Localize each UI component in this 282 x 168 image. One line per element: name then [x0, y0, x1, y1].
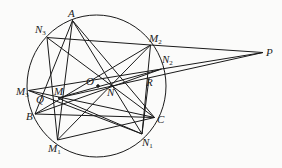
label-P: P — [265, 46, 273, 58]
label-C: C — [157, 113, 165, 125]
label-R: R — [145, 76, 153, 88]
segment-M1-C — [58, 118, 155, 141]
label-B: B — [26, 110, 33, 122]
segment-N2-P — [162, 53, 264, 70]
circle-figure: AN3M2N2RPM3QMONBCN1M1 — [0, 0, 282, 168]
label-M: M — [53, 85, 64, 97]
label-O: O — [86, 75, 94, 87]
geometry-diagram: AN3M2N2RPM3QMONBCN1M1 — [0, 0, 282, 168]
segment-M-N1 — [58, 98, 142, 134]
label-Q: Q — [36, 93, 44, 105]
segment-N3-M2 — [47, 38, 151, 46]
label-A: A — [67, 7, 75, 19]
label-M1: M1 — [47, 142, 61, 156]
center-point — [97, 85, 100, 88]
segment-B-C — [35, 114, 155, 118]
segment-M3-N1 — [29, 91, 143, 135]
label-N3: N3 — [34, 23, 46, 37]
label-N: N — [106, 86, 115, 98]
label-N1: N1 — [141, 136, 153, 150]
segment-M2-P — [151, 45, 264, 53]
label-N2: N2 — [161, 53, 173, 67]
label-M2: M2 — [148, 32, 162, 46]
